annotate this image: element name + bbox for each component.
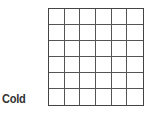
grid-cell	[96, 41, 112, 57]
grid-cell	[96, 73, 112, 89]
grid-cell	[112, 41, 128, 57]
grid-cell	[96, 57, 112, 73]
grid-cell	[96, 9, 112, 25]
grid-cell	[127, 57, 143, 73]
grid-cell	[127, 41, 143, 57]
grid-cell	[65, 57, 81, 73]
grid-cell	[80, 89, 96, 105]
grid-cell	[112, 89, 128, 105]
grid-cell	[80, 57, 96, 73]
grid-cell	[127, 25, 143, 41]
grid-cell	[65, 89, 81, 105]
grid-cell	[65, 73, 81, 89]
grid-cell	[80, 25, 96, 41]
grid-cell	[127, 89, 143, 105]
grid-cell	[112, 57, 128, 73]
grid-cell	[49, 9, 65, 25]
grid-cell	[96, 89, 112, 105]
grid-cell	[112, 73, 128, 89]
grid-cell	[49, 41, 65, 57]
grid-cell	[65, 25, 81, 41]
grid-cell	[80, 41, 96, 57]
grid-cell	[80, 9, 96, 25]
grid-cell	[65, 41, 81, 57]
cold-label: Cold	[2, 91, 26, 106]
grid-cell	[49, 73, 65, 89]
grid-cell	[49, 89, 65, 105]
grid-cell	[65, 9, 81, 25]
grid-cell	[127, 73, 143, 89]
grid-cell	[49, 57, 65, 73]
grid-cell	[127, 9, 143, 25]
grid-diagram	[48, 8, 144, 106]
grid-cell	[112, 9, 128, 25]
grid-cell	[112, 25, 128, 41]
grid-cell	[96, 25, 112, 41]
grid-cell	[80, 73, 96, 89]
grid-cell	[49, 25, 65, 41]
